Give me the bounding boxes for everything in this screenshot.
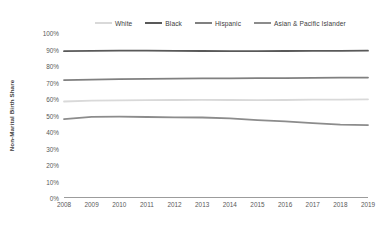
x-tick-label: 2010 [112, 201, 126, 208]
legend-item-hispanic[interactable]: Hispanic [195, 20, 241, 27]
legend-item-label: White [115, 20, 132, 27]
series-line-asian-pacific-islander [64, 117, 368, 125]
y-tick-label: 90% [46, 46, 59, 53]
legend-swatch-icon [254, 22, 271, 24]
x-tick-label: 2018 [333, 201, 347, 208]
y-tick-label: 80% [46, 63, 59, 70]
x-tick-label: 2011 [140, 201, 154, 208]
x-tick-label: 2013 [195, 201, 209, 208]
x-axis-line [64, 197, 368, 198]
legend-item-label: Black [165, 20, 182, 27]
y-tick-label: 60% [46, 96, 59, 103]
legend-item-asian-pacific-islander[interactable]: Asian & Pacific Islander [254, 20, 346, 27]
x-tick-label: 2012 [167, 201, 181, 208]
y-tick-label: 30% [46, 145, 59, 152]
y-tick-label: 40% [46, 129, 59, 136]
legend-item-white[interactable]: White [95, 20, 132, 27]
series-line-white [64, 99, 368, 101]
legend-swatch-icon [195, 22, 212, 24]
y-axis-title: Non-Marital Birth Share [2, 0, 22, 230]
legend-item-black[interactable]: Black [145, 20, 182, 27]
x-tick-label: 2014 [223, 201, 237, 208]
y-tick-label: 20% [46, 162, 59, 169]
x-tick-label: 2016 [278, 201, 292, 208]
x-tick-label: 2015 [250, 201, 264, 208]
y-tick-label: 100% [43, 30, 59, 37]
plot-area [64, 33, 368, 198]
y-axis-title-label: Non-Marital Birth Share [9, 79, 16, 150]
y-tick-label: 70% [46, 79, 59, 86]
x-tick-label: 2019 [361, 201, 375, 208]
legend-item-label: Asian & Pacific Islander [274, 20, 346, 27]
x-tick-label: 2017 [306, 201, 320, 208]
x-tick-label: 2008 [57, 201, 71, 208]
chart-legend: WhiteBlackHispanicAsian & Pacific Island… [95, 16, 375, 30]
legend-swatch-icon [95, 22, 112, 24]
plot-lines [64, 33, 368, 198]
series-line-hispanic [64, 78, 368, 80]
line-chart: WhiteBlackHispanicAsian & Pacific Island… [0, 0, 389, 230]
legend-swatch-icon [145, 22, 162, 24]
legend-item-label: Hispanic [215, 20, 241, 27]
y-tick-label: 10% [46, 178, 59, 185]
x-axis-tick-labels: 2008200920102011201220132014201520162017… [64, 201, 368, 215]
x-tick-label: 2009 [85, 201, 99, 208]
y-axis-tick-labels: 0%10%20%30%40%50%60%70%80%90%100% [22, 0, 62, 230]
y-tick-label: 50% [46, 112, 59, 119]
